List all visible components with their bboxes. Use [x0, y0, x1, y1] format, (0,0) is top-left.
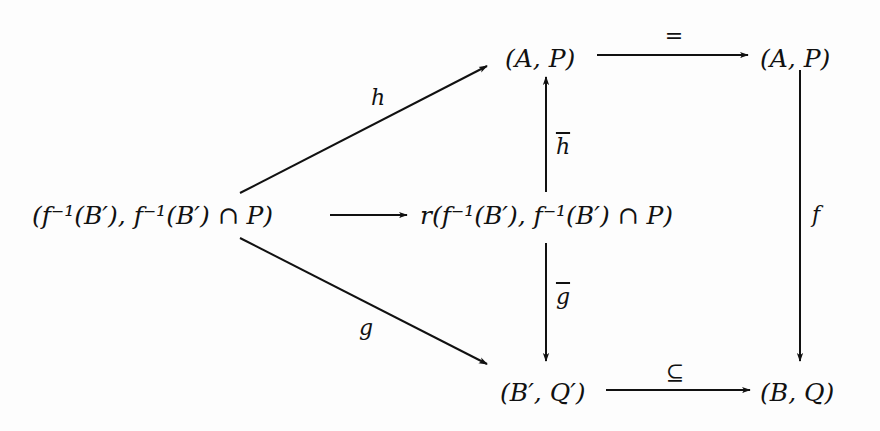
node-ap-right: (A, P)	[760, 46, 830, 71]
label-h-bar: h	[556, 136, 570, 158]
node-preimage-pair: (f⁻¹(B′), f⁻¹(B′) ∩ P)	[32, 203, 273, 228]
label-f: f	[812, 204, 820, 226]
node-bq: (B, Q)	[760, 380, 834, 405]
label-g: g	[359, 317, 373, 339]
node-bq-prime: (B′, Q′)	[500, 380, 586, 405]
label-subset: ⊆	[666, 362, 684, 384]
arrow-g	[240, 238, 487, 364]
label-equals: =	[665, 25, 683, 47]
node-r-preimage-pair: r(f⁻¹(B′), f⁻¹(B′) ∩ P)	[420, 203, 673, 228]
label-g-bar: g	[556, 286, 570, 308]
arrow-h	[240, 66, 487, 193]
node-ap-left: (A, P)	[505, 46, 575, 71]
label-h: h	[371, 87, 385, 109]
commutative-diagram: (A, P) (A, P) (f⁻¹(B′), f⁻¹(B′) ∩ P) r(f…	[0, 0, 880, 431]
